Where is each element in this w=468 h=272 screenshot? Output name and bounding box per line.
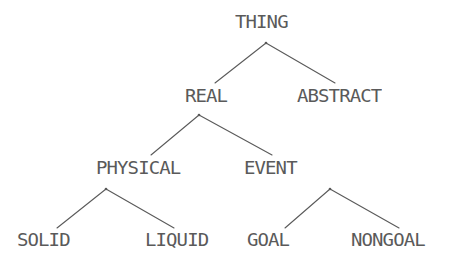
node-solid: SOLID — [17, 230, 70, 249]
node-goal: GOAL — [247, 230, 289, 249]
node-thing: THING — [235, 12, 288, 31]
node-nongoal: NONGOAL — [351, 230, 425, 249]
edge-event-goal — [285, 189, 330, 228]
edge-real-physical — [151, 115, 199, 155]
vertex-thing — [265, 42, 268, 45]
node-event: EVENT — [244, 158, 297, 177]
node-abstract: ABSTRACT — [297, 86, 381, 105]
vertex-event — [329, 188, 332, 191]
edge-physical-solid — [57, 189, 106, 228]
node-liquid: LIQUID — [145, 230, 208, 249]
edge-real-event — [199, 115, 272, 155]
taxonomy-tree-diagram: THING REAL ABSTRACT PHYSICAL EVENT SOLID… — [0, 0, 468, 272]
edge-thing-real — [215, 43, 266, 83]
edge-physical-liquid — [106, 189, 174, 228]
node-physical: PHYSICAL — [96, 158, 180, 177]
edge-thing-abstract — [266, 43, 335, 83]
vertex-real — [198, 114, 201, 117]
vertex-physical — [105, 188, 108, 191]
node-real: REAL — [185, 86, 227, 105]
edge-event-nongoal — [330, 189, 399, 228]
